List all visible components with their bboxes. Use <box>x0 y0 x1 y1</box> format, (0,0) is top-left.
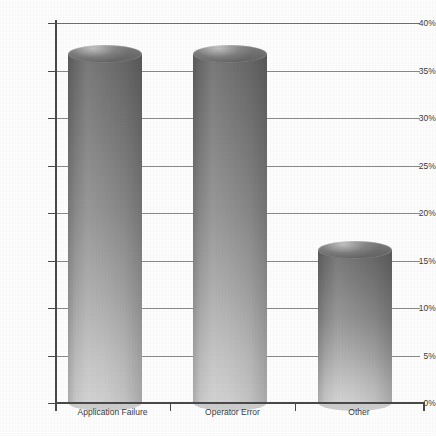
x-axis-line <box>55 402 425 404</box>
y-tick-25 <box>48 166 56 167</box>
y-tick-15 <box>48 261 56 262</box>
bar-top-ellipse <box>193 45 267 63</box>
y-tick-40 <box>48 23 56 24</box>
category-label-other: Other <box>295 408 423 417</box>
gridline-40 <box>55 23 420 24</box>
bar-body <box>318 250 392 403</box>
y-tick-35 <box>48 71 56 72</box>
bar-body <box>193 54 267 403</box>
y-tick-label-25: 25% <box>390 162 436 171</box>
category-label-operator-error: Operator Error <box>170 408 295 417</box>
bar-other <box>318 241 392 403</box>
bar-operator-error <box>193 45 267 403</box>
y-tick-5 <box>48 356 56 357</box>
y-tick-label-40: 40% <box>390 19 436 28</box>
y-tick-label-35: 35% <box>390 67 436 76</box>
plot-area: 40% 35% 30% 25% 20% 15% 10% 5% 0% Applic… <box>0 0 436 436</box>
y-tick-label-30: 30% <box>390 114 436 123</box>
y-tick-30 <box>48 118 56 119</box>
x-tick-end <box>423 403 425 411</box>
y-tick-10 <box>48 308 56 309</box>
bar-top-ellipse <box>68 45 142 63</box>
y-tick-20 <box>48 213 56 214</box>
y-tick-label-0: 0% <box>390 399 436 408</box>
y-tick-label-5: 5% <box>390 352 436 361</box>
bar-body <box>68 54 142 403</box>
bar-application-failure <box>68 45 142 403</box>
y-tick-label-15: 15% <box>390 257 436 266</box>
y-tick-label-10: 10% <box>390 304 436 313</box>
y-tick-label-20: 20% <box>390 209 436 218</box>
category-label-application-failure: Application Failure <box>55 408 170 417</box>
cylinder-bar-chart: 40% 35% 30% 25% 20% 15% 10% 5% 0% Applic… <box>0 0 436 436</box>
bar-top-ellipse <box>318 241 392 259</box>
